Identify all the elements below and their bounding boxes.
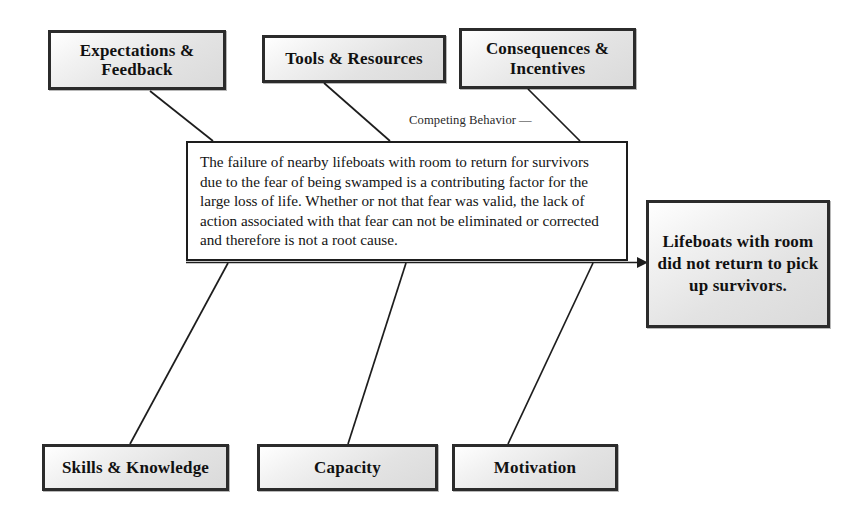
narrative-text-box[interactable]: The failure of nearby lifeboats with roo… [186, 141, 628, 261]
effect-box[interactable]: Lifeboats with room did not return to pi… [646, 200, 830, 328]
cause-box-capacity[interactable]: Capacity [257, 444, 438, 491]
cause-label-consequences-incentives: Consequences & Incentives [462, 39, 633, 77]
cause-label-skills-knowledge: Skills & Knowledge [56, 458, 215, 477]
cause-box-tools-resources[interactable]: Tools & Resources [262, 35, 446, 83]
cause-box-motivation[interactable]: Motivation [452, 444, 618, 491]
rib-motivation [508, 263, 593, 444]
competing-behavior-label: Competing Behavior [409, 113, 516, 127]
competing-behavior-annotation: Competing Behavior— [409, 113, 532, 128]
fishbone-diagram-canvas: Expectations & Feedback Tools & Resource… [0, 0, 862, 526]
cause-label-capacity: Capacity [308, 458, 387, 477]
competing-behavior-dash: — [516, 113, 532, 128]
effect-label: Lifeboats with room did not return to pi… [649, 231, 827, 296]
rib-expectations-feedback [150, 91, 213, 141]
rib-capacity [348, 263, 406, 444]
cause-label-motivation: Motivation [488, 458, 582, 477]
rib-tools-resources [324, 83, 390, 141]
rib-consequences-incentives [528, 89, 580, 141]
cause-box-skills-knowledge[interactable]: Skills & Knowledge [42, 444, 229, 491]
rib-skills-knowledge [130, 263, 228, 444]
cause-box-expectations-feedback[interactable]: Expectations & Feedback [48, 30, 226, 90]
cause-label-expectations-feedback: Expectations & Feedback [51, 41, 223, 79]
cause-label-tools-resources: Tools & Resources [279, 49, 429, 68]
narrative-text: The failure of nearby lifeboats with roo… [200, 153, 599, 248]
cause-box-consequences-incentives[interactable]: Consequences & Incentives [459, 28, 636, 89]
